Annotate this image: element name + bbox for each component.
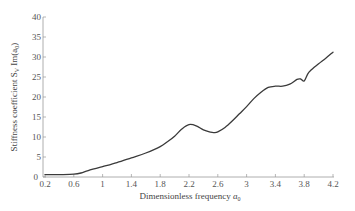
y-tick-label: 15 (32, 112, 42, 122)
axes (43, 17, 334, 177)
y-tick-label: 40 (32, 12, 42, 22)
x-tick-label: 1.8 (155, 179, 167, 189)
x-tick-label: 3 (244, 179, 249, 189)
x-tick-label: 0.6 (68, 179, 80, 189)
x-tick-label: 2.6 (212, 179, 224, 189)
x-axis-title: Dimensionless frequency a0 (140, 191, 241, 202)
x-tick-label: 3.4 (270, 179, 282, 189)
y-axis-title: Stiffness coefficient SV Im(a0) (9, 43, 20, 152)
stiffness-chart: 0510152025303540 0.20.611.41.82.22.633.4… (0, 0, 355, 211)
x-tick-label: 2.2 (183, 179, 194, 189)
y-tick-label: 20 (32, 92, 42, 102)
y-tick-label: 5 (37, 152, 42, 162)
x-ticks: 0.20.611.41.82.22.633.43.84.2 (39, 174, 338, 189)
y-ticks: 0510152025303540 (32, 12, 46, 182)
x-tick-label: 3.8 (299, 179, 311, 189)
x-tick-label: 4.2 (327, 179, 338, 189)
y-tick-label: 25 (32, 72, 42, 82)
y-tick-label: 35 (32, 32, 42, 42)
stiffness-curve (45, 52, 333, 174)
y-tick-label: 0 (34, 172, 39, 182)
y-tick-label: 10 (32, 132, 42, 142)
x-tick-label: 1 (100, 179, 105, 189)
y-tick-label: 30 (32, 52, 42, 62)
x-tick-label: 1.4 (126, 179, 138, 189)
x-tick-label: 0.2 (39, 179, 50, 189)
